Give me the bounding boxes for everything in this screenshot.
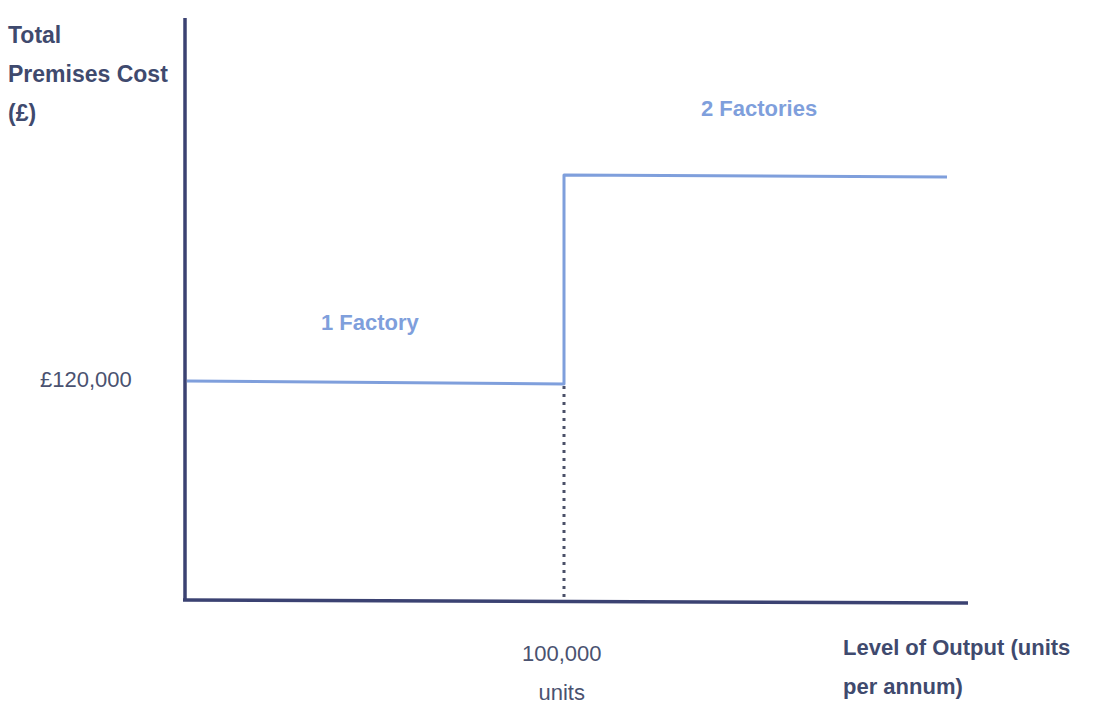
- y-axis-title-line-1: Total: [8, 16, 168, 55]
- x-tick-line-1: 100,000: [522, 634, 602, 673]
- x-axis: [183, 600, 968, 603]
- x-axis-title: Level of Output (units per annum): [843, 628, 1070, 706]
- step-cost-line: [187, 175, 947, 384]
- y-tick-label: £120,000: [40, 367, 132, 393]
- x-axis-title-line-1: Level of Output (units: [843, 628, 1070, 667]
- x-axis-title-line-2: per annum): [843, 667, 1070, 706]
- x-tick-label: 100,000 units: [522, 634, 602, 712]
- y-axis-title: Total Premises Cost (£): [8, 16, 168, 133]
- segment-label-1-factory: 1 Factory: [321, 310, 419, 336]
- x-tick-line-2: units: [522, 673, 602, 712]
- y-axis-title-line-3: (£): [8, 94, 168, 133]
- segment-label-2-factories: 2 Factories: [701, 96, 817, 122]
- y-axis-title-line-2: Premises Cost: [8, 55, 168, 94]
